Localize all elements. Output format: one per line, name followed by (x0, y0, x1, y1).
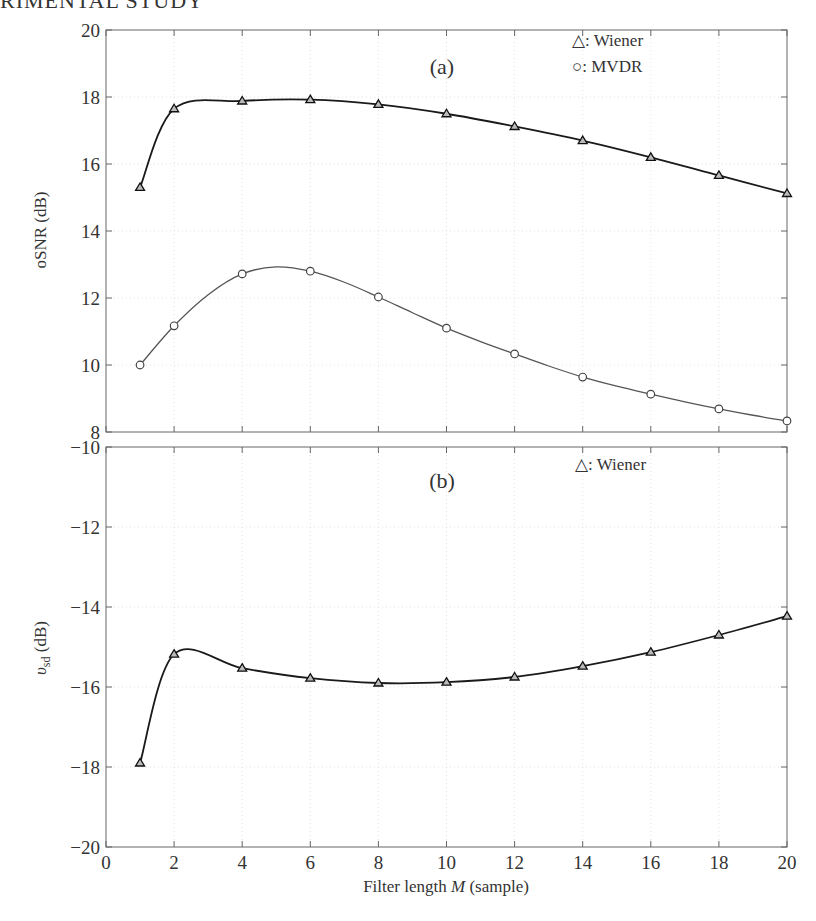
series-line (140, 99, 787, 193)
y-axis-title-b-sub: sd (39, 656, 53, 667)
circle-marker (170, 322, 178, 330)
y-axis-title-a: oSNR (dB) (31, 192, 50, 269)
legend: △: Wiener (575, 455, 646, 474)
triangle-marker (783, 612, 792, 620)
series-mvdr (136, 267, 791, 425)
legend-entry-wiener: △: Wiener (575, 455, 646, 474)
circle-marker (579, 373, 587, 381)
y-tick-label: −18 (70, 757, 100, 778)
y-tick-label: −12 (70, 517, 100, 538)
series-wiener (136, 95, 792, 196)
x-axis-title-var: M (450, 877, 466, 896)
circle-marker (307, 267, 315, 275)
panel-label: (b) (429, 468, 455, 493)
circle-marker (511, 350, 519, 358)
y-tick-label: −14 (70, 597, 100, 618)
circle-marker (375, 293, 383, 301)
legend: △: Wiener○: MVDR (572, 31, 643, 76)
x-axis-title-suffix: (sample) (465, 877, 529, 896)
x-tick-label: 12 (505, 852, 524, 873)
circle-marker (443, 324, 451, 332)
y-tick-label: −16 (70, 677, 100, 698)
x-tick-label: 16 (641, 852, 660, 873)
y-tick-label: 10 (81, 355, 100, 376)
circle-marker (136, 361, 144, 369)
y-tick-label: 20 (81, 20, 100, 41)
y-tick-label: 16 (81, 154, 100, 175)
triangle-marker (136, 759, 145, 767)
series-line (140, 267, 787, 421)
y-axis-title-b: υsd (dB) (31, 621, 53, 675)
series-wiener (136, 612, 792, 766)
series-line (140, 616, 787, 763)
x-tick-label: 0 (101, 852, 111, 873)
legend-entry-wiener: △: Wiener (572, 31, 643, 50)
legend-entry-mvdr: ○: MVDR (572, 57, 643, 76)
panel-a-osnr-plot: 8101214161820(a)△: Wiener○: MVDR (81, 20, 792, 443)
x-tick-label: 2 (169, 852, 179, 873)
triangle-marker (136, 183, 145, 191)
circle-marker (783, 417, 791, 425)
circle-marker (238, 270, 246, 278)
x-tick-label: 4 (237, 852, 247, 873)
y-tick-label: 18 (81, 87, 100, 108)
y-tick-label: −10 (70, 437, 100, 458)
y-axis-title-b-unit: (dB) (31, 621, 50, 656)
panel-b-vsd-plot: −20−18−16−14−12−1002468101214161820(b)△:… (70, 437, 796, 873)
x-tick-label: 20 (778, 852, 797, 873)
grid-lines (106, 30, 787, 432)
x-tick-label: 18 (709, 852, 728, 873)
y-tick-label: 14 (81, 221, 101, 242)
axis-ticks: −20−18−16−14−12−1002468101214161820 (70, 437, 796, 873)
x-tick-label: 14 (573, 852, 593, 873)
x-tick-label: 6 (306, 852, 316, 873)
y-axis-title-b-var: υ (31, 667, 50, 675)
x-tick-label: 8 (374, 852, 384, 873)
svg-text:Filter length M (sample): Filter length M (sample) (363, 877, 529, 896)
x-axis-title: Filter length M (sample) (363, 877, 529, 896)
grid-lines (106, 447, 787, 847)
circle-marker (715, 405, 723, 413)
x-tick-label: 10 (437, 852, 456, 873)
figure: 8101214161820(a)△: Wiener○: MVDR −20−18−… (0, 0, 816, 921)
y-tick-label: −20 (70, 837, 100, 858)
y-tick-label: 12 (81, 288, 100, 309)
circle-marker (647, 390, 655, 398)
x-axis-title-prefix: Filter length (363, 877, 451, 896)
panel-label: (a) (430, 54, 454, 79)
